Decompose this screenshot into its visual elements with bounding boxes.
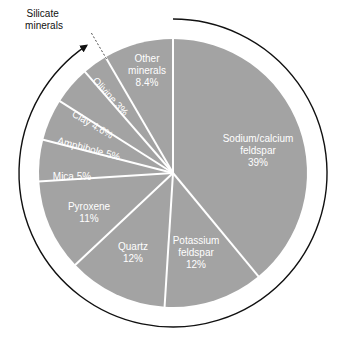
silicate-label-line1: Silicate <box>26 8 59 19</box>
slice-label: Mica 5% <box>53 171 91 182</box>
silicate-label-line2: minerals <box>25 20 63 31</box>
pie-chart: Sodium/calciumfeldspar39%Potassiumfeldsp… <box>0 0 339 348</box>
silicate-minerals-label: Silicate minerals <box>25 8 63 31</box>
silicate-boundary-dashed-line <box>90 31 106 59</box>
